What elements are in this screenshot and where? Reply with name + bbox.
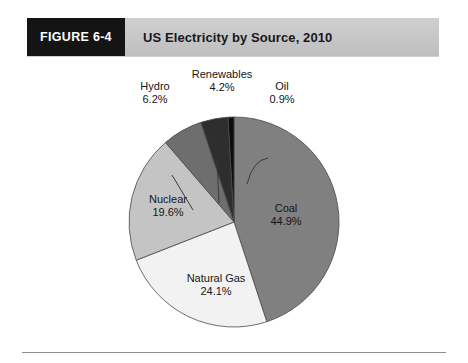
pie-chart-area: Coal44.9%Natural Gas24.1%Nuclear19.6%Hyd… <box>0 60 468 330</box>
slice-label-coal: Coal44.9% <box>270 202 301 227</box>
slice-label-hydro: Hydro6.2% <box>140 80 169 105</box>
figure-container: FIGURE 6-4 US Electricity by Source, 201… <box>0 0 468 363</box>
footer-divider <box>22 352 446 353</box>
pie-slices-group <box>129 117 339 327</box>
figure-number-tab: FIGURE 6-4 <box>27 18 125 56</box>
slice-label-renewables: Renewables4.2% <box>192 68 253 93</box>
figure-title: US Electricity by Source, 2010 <box>143 30 332 45</box>
figure-title-bar: US Electricity by Source, 2010 <box>125 18 439 56</box>
pie-chart-svg: Coal44.9%Natural Gas24.1%Nuclear19.6%Hyd… <box>0 60 468 330</box>
slice-label-nuclear: Nuclear19.6% <box>149 193 187 218</box>
figure-header: FIGURE 6-4 US Electricity by Source, 201… <box>27 18 439 56</box>
slice-label-oil: Oil0.9% <box>269 80 294 105</box>
